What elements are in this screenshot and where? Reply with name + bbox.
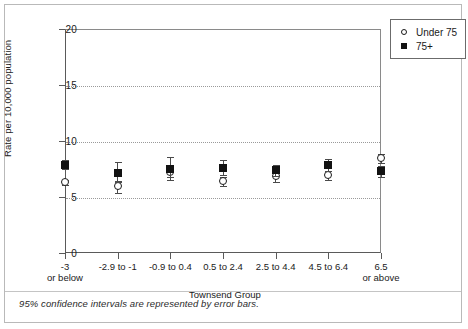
error-bar-cap-lower bbox=[378, 177, 385, 178]
error-bar-cap-lower bbox=[325, 180, 332, 181]
y-axis-title: Rate per 10,000 population bbox=[2, 40, 13, 157]
y-tick-label-10: 10 bbox=[37, 136, 77, 147]
gridline-10 bbox=[66, 142, 380, 143]
y-tick-label-0: 0 bbox=[37, 248, 77, 259]
error-bar-cap-lower bbox=[378, 163, 385, 164]
error-bar-cap-lower bbox=[115, 193, 122, 194]
legend-item: 75+ bbox=[397, 39, 457, 53]
filled-square-icon bbox=[324, 161, 332, 169]
error-bar-cap-lower bbox=[325, 171, 332, 172]
error-bar-cap-lower bbox=[220, 175, 227, 176]
gridline-5 bbox=[66, 198, 380, 199]
legend-item-label: Under 75 bbox=[416, 27, 457, 38]
error-bar-cap-lower bbox=[167, 177, 174, 178]
gridline-15 bbox=[66, 86, 380, 87]
x-tick-mark-2 bbox=[170, 253, 171, 259]
y-tick-label-5: 5 bbox=[37, 192, 77, 203]
error-bar-cap-lower bbox=[62, 169, 69, 170]
open-circle-icon bbox=[61, 178, 69, 186]
plot-frame bbox=[65, 29, 381, 253]
x-tick-mark-3 bbox=[223, 253, 224, 259]
error-bar-cap-lower bbox=[273, 182, 280, 183]
error-bar-cap-upper bbox=[220, 160, 227, 161]
x-tick-mark-4 bbox=[276, 253, 277, 259]
error-bar-cap-lower bbox=[273, 176, 280, 177]
y-tick-label-15: 15 bbox=[37, 80, 77, 91]
caption-divider bbox=[5, 291, 461, 292]
legend-item: Under 75 bbox=[397, 25, 457, 39]
chart-area: Rate per 10,000 population 05101520-3or … bbox=[5, 5, 461, 291]
x-tick-mark-0 bbox=[65, 253, 66, 259]
open-circle-icon bbox=[397, 29, 411, 35]
filled-square-icon bbox=[166, 165, 174, 173]
open-circle-icon bbox=[377, 154, 385, 162]
x-tick-mark-6 bbox=[381, 253, 382, 259]
filled-square-icon bbox=[114, 169, 122, 177]
filled-square-icon bbox=[61, 161, 69, 169]
x-tick-mark-5 bbox=[328, 253, 329, 259]
error-bar-cap-lower bbox=[167, 180, 174, 181]
figure-caption: 95% confidence intervals are represented… bbox=[19, 298, 259, 309]
open-circle-icon bbox=[219, 177, 227, 185]
legend-item-label: 75+ bbox=[416, 41, 433, 52]
x-tick-label-6: 6.5or above bbox=[341, 261, 421, 283]
error-bar-cap-upper bbox=[167, 157, 174, 158]
filled-square-icon bbox=[219, 164, 227, 172]
x-tick-mark-1 bbox=[118, 253, 119, 259]
legend: Under 7575+ bbox=[390, 19, 466, 59]
figure-panel: Rate per 10,000 population 05101520-3or … bbox=[4, 4, 462, 323]
filled-square-icon bbox=[397, 43, 411, 49]
error-bar-cap-lower bbox=[220, 186, 227, 187]
filled-square-icon bbox=[377, 167, 385, 175]
error-bar-cap-upper bbox=[115, 162, 122, 163]
error-bar-cap-lower bbox=[115, 182, 122, 183]
y-tick-label-20: 20 bbox=[37, 24, 77, 35]
filled-square-icon bbox=[272, 166, 280, 174]
